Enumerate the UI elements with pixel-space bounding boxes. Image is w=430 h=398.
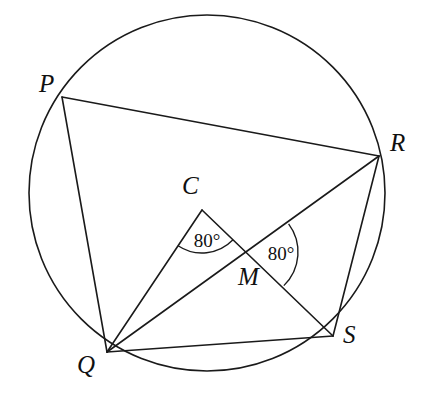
vertex-label-c: C xyxy=(182,173,199,198)
chord-p-q xyxy=(62,97,107,352)
geometry-figure: PRQSCM 80°80° xyxy=(0,0,430,398)
chord-r-s xyxy=(333,156,379,336)
vertex-label-s: S xyxy=(343,322,356,347)
angle-at-M-value: 80° xyxy=(268,244,295,263)
vertex-label-p: P xyxy=(39,71,54,96)
chord-q-s xyxy=(107,336,333,352)
radius-c-s xyxy=(202,210,333,336)
geometry-canvas xyxy=(0,0,430,398)
angle-at-C-value: 80° xyxy=(194,231,221,250)
vertex-label-m: M xyxy=(238,264,259,289)
vertex-label-q: Q xyxy=(77,352,95,377)
chord-q-r xyxy=(107,156,379,352)
chord-p-r xyxy=(62,97,379,156)
chord-group xyxy=(62,97,379,352)
circumcircle xyxy=(29,15,385,371)
vertex-label-r: R xyxy=(390,130,405,155)
radius-c-q xyxy=(107,210,202,352)
